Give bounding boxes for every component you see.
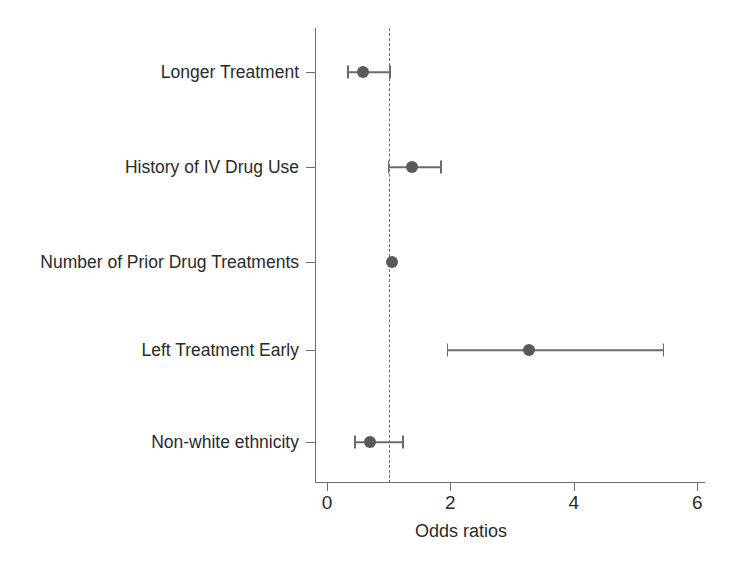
confidence-interval-line: [348, 71, 390, 73]
x-axis-title: Odds ratios: [0, 521, 746, 542]
y-axis-line: [315, 28, 316, 483]
y-axis-category-label: Longer Treatment: [161, 62, 299, 83]
y-axis-tick: [306, 167, 315, 168]
y-axis-category-label: Number of Prior Drug Treatments: [40, 252, 299, 273]
x-axis-tick-label: 2: [430, 492, 470, 514]
forest-plot: Longer TreatmentHistory of IV Drug UseNu…: [0, 0, 746, 562]
odds-ratio-point-marker: [386, 256, 398, 268]
y-axis-tick: [306, 350, 315, 351]
confidence-interval-cap: [389, 66, 391, 79]
odds-ratio-point-marker: [357, 66, 369, 78]
x-axis-title-text: Odds ratios: [415, 521, 507, 541]
x-axis-tick-label: 6: [677, 492, 717, 514]
confidence-interval-cap: [447, 344, 449, 357]
y-axis-tick: [306, 72, 315, 73]
x-axis-tick: [697, 483, 698, 491]
confidence-interval-line: [447, 349, 663, 351]
confidence-interval-cap: [663, 344, 665, 357]
y-axis-category-label: Left Treatment Early: [141, 340, 299, 361]
y-axis-category-label: Non-white ethnicity: [151, 432, 299, 453]
x-axis-tick-label: 0: [307, 492, 347, 514]
confidence-interval-cap: [388, 161, 390, 174]
confidence-interval-cap: [347, 66, 349, 79]
odds-ratio-point-marker: [406, 161, 418, 173]
confidence-interval-line: [355, 441, 403, 443]
x-axis-tick-label: 4: [554, 492, 594, 514]
confidence-interval-cap: [440, 161, 442, 174]
x-axis-line: [315, 482, 705, 483]
odds-ratio-point-marker: [364, 436, 376, 448]
x-axis-tick: [574, 483, 575, 491]
confidence-interval-cap: [354, 436, 356, 449]
y-axis-tick: [306, 262, 315, 263]
y-axis-tick: [306, 442, 315, 443]
x-axis-tick: [327, 483, 328, 491]
x-axis-tick: [450, 483, 451, 491]
odds-ratio-point-marker: [523, 344, 535, 356]
confidence-interval-cap: [402, 436, 404, 449]
y-axis-category-label: History of IV Drug Use: [125, 157, 299, 178]
